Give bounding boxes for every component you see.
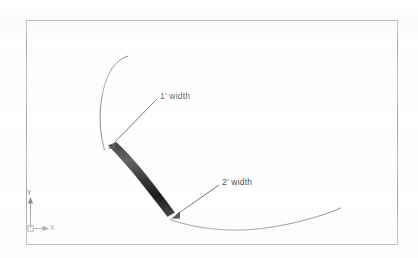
leader-line-1-width — [112, 99, 157, 145]
tapered-polyline-band — [109, 143, 175, 217]
ucs-y-axis-arrowhead — [28, 197, 33, 204]
ucs-x-axis-label: X — [50, 224, 54, 231]
upper-arc — [100, 56, 128, 150]
cad-drawing-screenshot: 1' width 2' width Y X — [0, 0, 418, 258]
annotation-label-2-width: 2' width — [222, 177, 252, 187]
drawing-border — [27, 21, 398, 245]
annotation-label-1-width: 1' width — [160, 91, 190, 101]
leader-line-2-width — [176, 185, 219, 215]
lower-arc — [170, 208, 341, 230]
ucs-x-axis-arrowhead — [43, 226, 50, 231]
drawing-canvas — [0, 0, 418, 258]
ucs-y-axis-label: Y — [27, 189, 31, 196]
